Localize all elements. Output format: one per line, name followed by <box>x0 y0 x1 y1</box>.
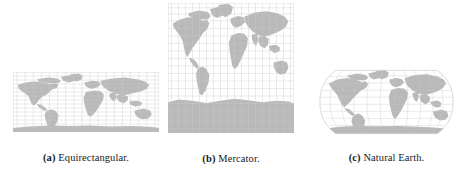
caption-mercator: (b) Mercator. <box>168 153 294 164</box>
mercator-map-svg <box>168 3 294 133</box>
figure-row: (a) Equirectangular. <box>0 0 471 176</box>
equirectangular-landmasses <box>13 74 159 132</box>
figure-panel-naturalearth: (c) Natural Earth. <box>315 68 458 136</box>
map-mercator <box>168 3 294 133</box>
caption-equirectangular: (a) Equirectangular. <box>13 152 159 163</box>
equirectangular-map-svg <box>13 72 159 132</box>
figure-panel-mercator: (b) Mercator. <box>168 3 294 133</box>
caption-naturalearth: (c) Natural Earth. <box>315 152 458 163</box>
mercator-landmasses <box>168 4 294 133</box>
caption-label-c: Natural Earth. <box>363 152 424 163</box>
naturalearth-map-svg <box>315 68 458 136</box>
caption-tag-a: (a) <box>43 152 58 163</box>
caption-label-a: Equirectangular. <box>58 152 129 163</box>
caption-label-b: Mercator. <box>218 153 259 164</box>
map-naturalearth <box>315 68 458 136</box>
naturalearth-landmasses <box>323 70 450 136</box>
figure-panel-equirectangular: (a) Equirectangular. <box>13 72 159 132</box>
map-equirectangular <box>13 72 159 132</box>
caption-tag-b: (b) <box>202 153 218 164</box>
caption-tag-c: (c) <box>349 152 364 163</box>
